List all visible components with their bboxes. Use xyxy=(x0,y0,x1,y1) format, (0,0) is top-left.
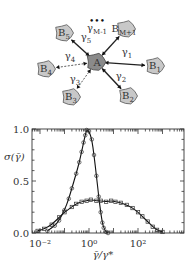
arrowhead-icon xyxy=(87,69,91,73)
x-axis-label: γ̄/γ* xyxy=(93,249,113,260)
x-tick-label: 10⁰ xyxy=(81,238,98,249)
plot-frame xyxy=(32,129,184,233)
network-diagram: γ1γ2γ3γ4γ5γM-1B1B2B3B4B5BM+1A••• xyxy=(38,16,165,105)
ellipsis-dots: ••• xyxy=(89,16,105,26)
x-tick-label: 10² xyxy=(130,238,147,249)
y-tick-label: 1.0 xyxy=(13,124,29,135)
node-A-label: A xyxy=(92,57,101,68)
figure: γ1γ2γ3γ4γ5γM-1B1B2B3B4B5BM+1A••• 0.00.51… xyxy=(0,0,194,276)
edge-label-gamma2: γ2 xyxy=(116,70,126,84)
edge-BM+1 xyxy=(102,36,119,55)
edge-label-gamma1: γ1 xyxy=(122,46,132,60)
arrowhead-icon xyxy=(141,63,145,67)
chart: 0.00.51.010⁻²10⁰10²σ(γ̄)γ̄/γ* xyxy=(4,124,184,261)
arrowhead-icon xyxy=(56,65,60,69)
edge-B1 xyxy=(105,63,145,66)
arrowhead-icon xyxy=(83,62,87,66)
y-tick-label: 0.5 xyxy=(13,176,29,187)
edge-label-gamma4: γ4 xyxy=(65,50,76,64)
y-axis-label: σ(γ̄) xyxy=(4,151,25,162)
x-tick-label: 10⁻² xyxy=(29,238,51,249)
y-tick-label: 0.0 xyxy=(13,228,29,239)
series-0-fit-line xyxy=(47,130,108,233)
edge-label-gamma3: γ3 xyxy=(70,73,80,87)
edge-label-gamma5: γ5 xyxy=(81,31,91,45)
